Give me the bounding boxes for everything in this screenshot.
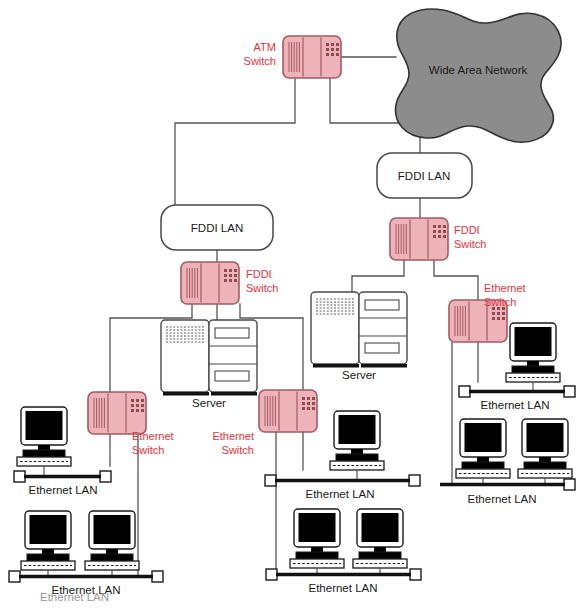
bus-terminator bbox=[100, 471, 111, 482]
bus-terminator bbox=[265, 475, 276, 486]
bus-terminator bbox=[9, 571, 20, 582]
bus-terminator bbox=[564, 479, 575, 490]
fddi-lan-left[interactable]: FDDI LAN bbox=[161, 205, 273, 250]
topology-svg: Wide Area Network ATM Switch FDDI LAN FD… bbox=[0, 0, 582, 612]
fddi-switch-left-label-line1: FDDI bbox=[246, 268, 272, 280]
bus-terminator bbox=[14, 471, 25, 482]
bus-terminator bbox=[410, 569, 421, 580]
workstation[interactable] bbox=[518, 419, 572, 478]
bus-terminator bbox=[409, 475, 420, 486]
bus-terminator bbox=[459, 386, 470, 397]
bus-terminator bbox=[152, 571, 163, 582]
fddi-lan-right-label: FDDI LAN bbox=[398, 170, 450, 182]
fddi-switch-left[interactable] bbox=[181, 262, 239, 304]
ethernet-switch-1[interactable] bbox=[88, 392, 146, 434]
ethernet-lan-5-label: Ethernet LAN bbox=[480, 399, 549, 411]
server-right-label: Server bbox=[342, 369, 376, 381]
workstation[interactable] bbox=[85, 511, 139, 570]
ethernet-switch-1-label-line2: Switch bbox=[132, 444, 164, 456]
ethernet-switch-1-label-line1: Ethernet bbox=[132, 430, 174, 442]
workstation[interactable] bbox=[290, 509, 344, 568]
ethernet-switch-2-label-line1: Ethernet bbox=[212, 430, 254, 442]
workstation[interactable] bbox=[330, 411, 384, 470]
fddi-switch-right-label-line1: FDDI bbox=[454, 224, 480, 236]
atm-switch-label-line1: ATM bbox=[254, 41, 276, 53]
fddi-lan-right[interactable]: FDDI LAN bbox=[377, 153, 472, 198]
ethernet-lan-3-label: Ethernet LAN bbox=[305, 488, 374, 500]
server-left-label: Server bbox=[192, 397, 226, 409]
ethernet-switch-2-label-line2: Switch bbox=[222, 444, 254, 456]
fddi-switch-right-label-line2: Switch bbox=[454, 238, 486, 250]
workstation[interactable] bbox=[17, 407, 71, 466]
bottom-caption: Ethernet LAN bbox=[40, 591, 109, 603]
bus-terminator bbox=[266, 569, 277, 580]
ethernet-lan-4-label: Ethernet LAN bbox=[308, 582, 377, 594]
ethernet-switch-2[interactable] bbox=[259, 390, 317, 432]
network-diagram-canvas: Wide Area Network ATM Switch FDDI LAN FD… bbox=[0, 0, 582, 612]
workstation[interactable] bbox=[456, 419, 510, 478]
workstation[interactable] bbox=[21, 511, 75, 570]
bus-terminator bbox=[564, 386, 575, 397]
atm-switch[interactable] bbox=[283, 36, 341, 78]
fddi-lan-left-label: FDDI LAN bbox=[191, 222, 243, 234]
workstation[interactable] bbox=[506, 323, 560, 382]
fddi-switch-left-label-line2: Switch bbox=[246, 282, 278, 294]
wide-area-network-cloud: Wide Area Network bbox=[396, 9, 561, 142]
atm-switch-label-line2: Switch bbox=[244, 55, 276, 67]
ethernet-lan-1-label: Ethernet LAN bbox=[28, 484, 97, 496]
ethernet-switch-3-label-line1: Ethernet bbox=[484, 282, 526, 294]
fddi-switch-right[interactable] bbox=[390, 218, 448, 260]
ethernet-switch-3-label-line2: Switch bbox=[484, 296, 516, 308]
ethernet-lan-6-label: Ethernet LAN bbox=[467, 493, 536, 505]
workstation[interactable] bbox=[353, 509, 407, 568]
wan-label: Wide Area Network bbox=[429, 64, 528, 76]
